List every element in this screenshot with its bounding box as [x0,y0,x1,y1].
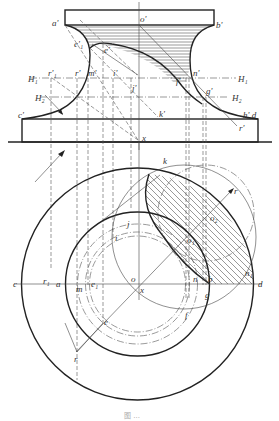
ray-o-r [139,25,237,126]
label-o2: o₂ [210,213,218,223]
label-o1: o₁ [187,235,195,245]
label-x: x [139,285,144,295]
label-d: d [258,279,263,289]
label-e1: e₁ [91,279,98,289]
label-j-prime: j' [131,83,138,93]
label-h2-right: H₂ [231,93,242,103]
label-r1-prime: r'₁ [48,68,57,78]
label-h1-left: H₁ [27,74,38,84]
label-j: j [126,219,130,229]
light-direction-arrow [35,150,65,182]
plan-construct-1 [77,323,103,352]
label-i: i [115,233,118,243]
label-f: f [185,310,189,320]
shadow-construction-diagram: a' o' b' e'₁ e' H₁ H₁ H₂ H₂ r'₁ r' m' i'… [0,0,279,421]
plan-construct-2 [65,323,77,352]
label-e-prime: e' [104,45,111,55]
label-o: o [131,274,136,284]
label-h1-right: H₁ [237,74,248,84]
label-n1: n₁ [245,268,253,278]
label-r-prime: r' [75,68,82,78]
label-e1-prime: e'₁ [74,39,83,49]
label-r1: r₁ [43,276,50,286]
label-h-prime-d: h' d [243,110,257,120]
ray-3 [52,78,138,140]
label-a: a [56,279,61,289]
label-r-bottom: r [74,354,78,364]
label-c: c [13,279,17,289]
label-r-prime-lower: r' [239,123,246,133]
plan-shadow-curve [146,174,210,284]
label-m: m [76,284,83,294]
figure-caption: 图 ... [124,412,140,420]
label-g: g [205,290,210,300]
label-k: k [163,156,168,166]
label-o-prime: o' [140,14,148,24]
label-e: e [104,317,108,327]
label-x-front: x [141,133,146,143]
label-b: b [208,274,213,284]
right-profile-curve [190,25,258,119]
label-h2-left: H₂ [34,93,45,103]
base-plate [22,119,258,142]
label-n: n [193,274,198,284]
label-k-prime: k' [159,109,166,119]
label-a-prime: a' [52,18,60,28]
label-n-prime: n' [193,68,201,78]
label-b-prime: b' [216,20,224,30]
plan-shadow-hatch [80,160,279,300]
label-m-prime: m' [88,68,97,78]
ray-2 [90,48,158,117]
label-r-top: r [234,186,238,196]
top-view: k r o₂ o₁ j i c r₁ a m e₁ o x n b g n₁ d… [13,142,279,400]
label-g-prime: g' [206,86,214,96]
